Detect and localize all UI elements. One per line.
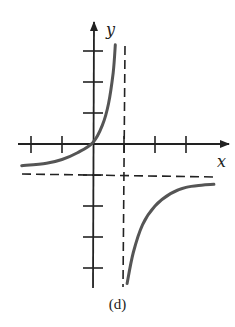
horizontal-asymptote — [22, 174, 217, 177]
x-axis-label: x — [217, 152, 226, 171]
y-axis — [93, 22, 94, 288]
graph-figure: x y (d) — [0, 0, 235, 327]
vertical-asymptote — [123, 46, 125, 287]
figure-caption: (d) — [0, 296, 235, 313]
curve-left-branch — [22, 45, 116, 166]
y-axis-label: y — [105, 20, 116, 39]
plot-canvas: x y — [0, 0, 235, 327]
asymptotes — [22, 46, 217, 287]
curve-right-branch — [127, 184, 214, 283]
tick-marks — [31, 51, 186, 268]
curves — [22, 45, 214, 284]
